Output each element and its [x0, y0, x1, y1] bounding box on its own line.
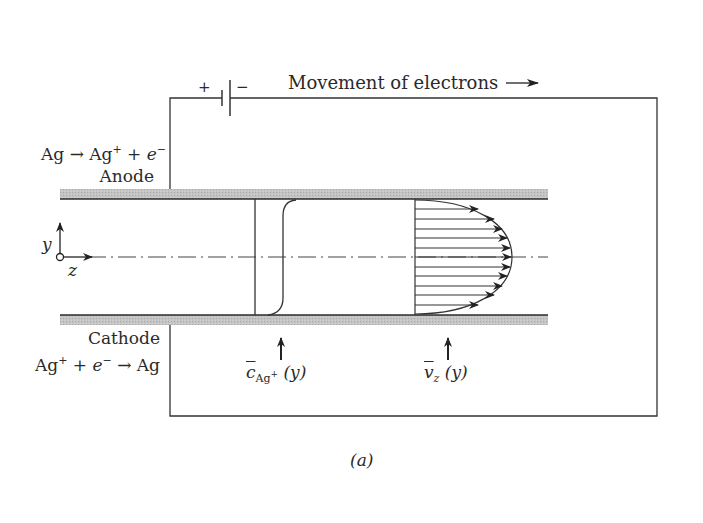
cathode-reaction: Ag+ + e− → Ag: [20, 355, 160, 374]
coordinate-axes-icon: [57, 223, 93, 261]
cathode-label: Cathode: [60, 330, 160, 347]
concentration-label: cAg+ (y): [246, 364, 306, 384]
velocity-profile: [415, 199, 512, 315]
z-axis-label: z: [68, 262, 77, 279]
battery-icon: [222, 80, 230, 116]
pointer-arrows: [281, 338, 448, 360]
cathode-wall: [60, 315, 548, 325]
anode-label: Anode: [60, 168, 154, 185]
anode-wall: [60, 189, 548, 199]
figure-caption: (a): [350, 452, 373, 469]
battery-minus-label: −: [236, 80, 249, 95]
velocity-label: vz (y): [424, 364, 468, 384]
battery-plus-label: +: [198, 80, 211, 95]
electron-flow-label: Movement of electrons: [288, 74, 498, 92]
anode-reaction: Ag → Ag+ + e−: [26, 144, 166, 163]
y-axis-label: y: [42, 236, 52, 253]
